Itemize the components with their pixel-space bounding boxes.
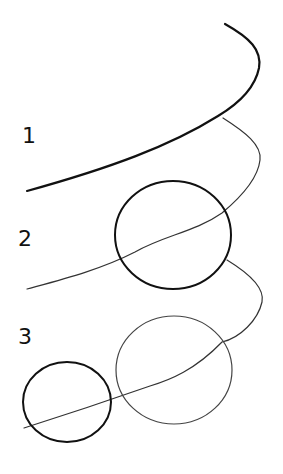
step-2-label: 2 [18,228,32,250]
sketch-diagram: 1 2 3 [0,0,283,474]
step-1-arc [27,24,259,191]
step-1-label: 1 [22,125,36,147]
step-3-large-oval [116,316,232,424]
step-3-label: 3 [18,326,32,348]
step-3-small-oval [23,362,111,442]
drawing-canvas [0,0,283,474]
step-2-arc [27,118,260,289]
step-3-arc [24,260,262,428]
